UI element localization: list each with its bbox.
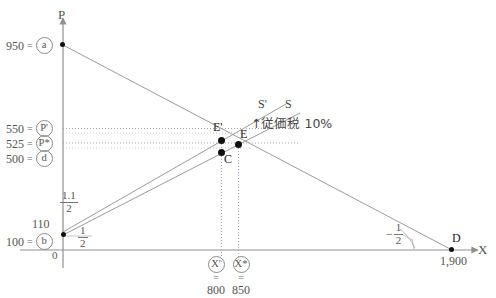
point-e-prime [218, 137, 225, 144]
slope-s-denominator: 2 [78, 238, 88, 250]
x-tick-x-prime-value: 800 [207, 284, 225, 297]
slope-s-numerator: 1 [78, 225, 88, 238]
x-tick-x-prime-token: X' [208, 256, 225, 273]
point-d [449, 247, 454, 252]
y-tick-525-eq: = [27, 139, 33, 149]
slope-d-sign: − [386, 228, 393, 240]
point-label-c: C [224, 153, 232, 165]
curve-label-s: S [285, 98, 292, 110]
slope-d-denominator: 2 [394, 235, 404, 247]
ad-valorem-tax-note: ↑従価税 10% [251, 118, 332, 131]
x-axis-label: X [478, 243, 487, 256]
slope-angle-tick-d [412, 239, 414, 249]
origin-label: 0 [52, 250, 58, 261]
y-tick-500: 500 = d [6, 150, 53, 167]
y-tick-500-value: 500 [6, 153, 24, 165]
x-tick-x-star-value: 850 [232, 284, 250, 297]
x-tick-x-prime-eq: = [213, 273, 219, 284]
slope-d-leader [402, 234, 412, 240]
x-tick-x-prime: X' = 800 [207, 256, 225, 296]
y-tick-100: 100 = b [6, 233, 53, 250]
y-tick-950: 950 = a [6, 37, 53, 54]
x-tick-x-star-token: X* [233, 256, 250, 273]
diagram-vector-layer [0, 0, 496, 298]
y-tick-100-eq: = [27, 237, 33, 247]
y-tick-550-eq: = [27, 124, 33, 134]
diagram-canvas: P X 0 950 = a 550 = P' 525 = P* 500 = d … [0, 0, 496, 298]
y-tick-525-value: 525 [6, 138, 24, 150]
demand-curve [63, 45, 452, 250]
slope-label-s: 1 2 [78, 225, 88, 249]
x-tick-x-star-eq: = [238, 273, 244, 284]
point-a [60, 42, 65, 47]
y-tick-950-token: a [36, 37, 53, 54]
y-tick-100-value: 100 [6, 236, 24, 248]
supply-curve-s [63, 113, 300, 235]
y-tick-500-token: d [36, 150, 53, 167]
y-tick-110: 110 [32, 218, 50, 230]
y-tick-950-value: 950 [6, 40, 24, 52]
point-label-d: D [452, 232, 461, 244]
point-b [61, 232, 66, 237]
slope-s-prime-denominator: 2 [60, 203, 78, 215]
y-tick-500-eq: = [27, 154, 33, 164]
slope-label-s-prime: 1.1 2 [60, 190, 78, 214]
y-tick-950-eq: = [27, 41, 33, 51]
point-label-e: E [240, 128, 247, 140]
x-tick-x-star: X* = 850 [232, 256, 250, 296]
slope-d-numerator: 1 [394, 222, 404, 235]
p-axis-label: P [58, 8, 65, 21]
y-tick-100-token: b [36, 233, 53, 250]
slope-label-d: − 1 2 [386, 222, 403, 246]
curve-label-s-prime: S' [258, 98, 267, 110]
point-e [235, 141, 242, 148]
slope-s-prime-numerator: 1.1 [60, 190, 78, 203]
y-tick-550-value: 550 [6, 123, 24, 135]
point-label-e-prime: E' [213, 121, 223, 133]
x-intercept-value: 1,900 [440, 255, 467, 267]
